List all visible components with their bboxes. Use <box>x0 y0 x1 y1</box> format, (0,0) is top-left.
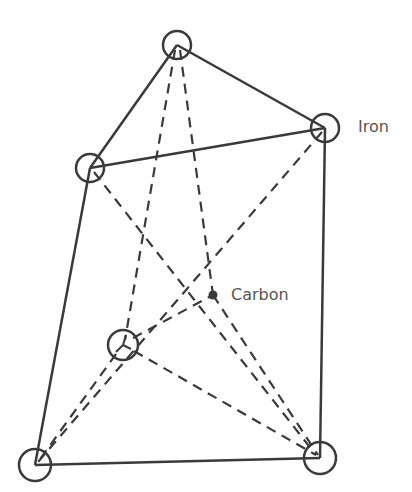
dash-inner-bottomright <box>134 351 316 455</box>
carbon-atom <box>209 291 218 300</box>
dash-carbon-bottomright <box>213 295 318 455</box>
dash-top-inner <box>125 50 175 340</box>
iron-label: Iron <box>358 117 389 136</box>
dash-inner-carbon <box>133 295 213 338</box>
edge-bottom <box>35 458 320 465</box>
inner-atom-mark <box>116 335 131 352</box>
dash-inner-bottomleft <box>38 354 116 462</box>
solid-edges <box>35 45 325 465</box>
edge-top-left <box>90 45 177 168</box>
carbon-label: Carbon <box>231 285 289 304</box>
dashed-edges <box>38 50 322 462</box>
edge-left-right <box>90 128 325 168</box>
edge-top-right <box>177 45 325 128</box>
edge-left-bottomleft <box>35 168 90 465</box>
dash-left-bottomright <box>94 172 316 455</box>
crystal-diagram <box>0 0 412 492</box>
edge-right-bottomright <box>320 128 325 458</box>
dash-top-carbon <box>180 50 213 295</box>
